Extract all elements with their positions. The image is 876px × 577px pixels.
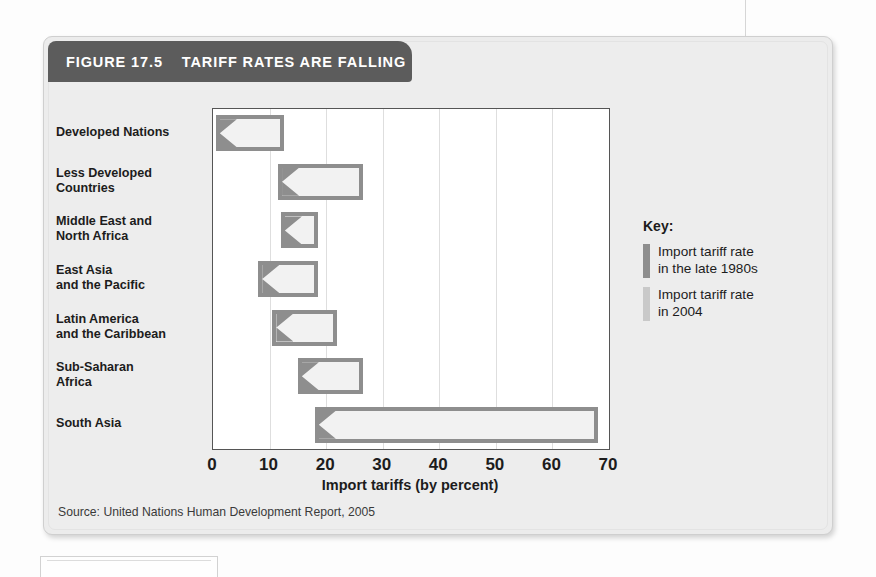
gridline-30 — [383, 109, 384, 449]
category-label-line1: Latin America — [56, 312, 224, 327]
bar-south-asia — [315, 407, 598, 443]
legend-label-line: in the late 1980s — [658, 260, 758, 277]
gridline-40 — [439, 109, 440, 449]
category-label-line2: North Africa — [56, 229, 224, 244]
x-tick-20: 20 — [305, 455, 345, 475]
category-label-line2: Africa — [56, 375, 224, 390]
figure-source: Source: United Nations Human Development… — [58, 505, 375, 519]
bar-developed-nations — [216, 115, 284, 151]
figure-number: FIGURE 17.5 — [66, 54, 163, 70]
category-label-6: South Asia — [56, 416, 224, 431]
category-label-line2: Countries — [56, 181, 224, 196]
legend-swatch-0 — [643, 244, 650, 278]
legend-label-line: Import tariff rate — [658, 243, 758, 260]
category-label-line1: Developed Nations — [56, 125, 224, 140]
category-label-line1: South Asia — [56, 416, 224, 431]
page-vertical-rule — [745, 0, 746, 38]
category-label-line1: Sub-Saharan — [56, 360, 224, 375]
category-label-5: Sub-SaharanAfrica — [56, 360, 224, 390]
x-tick-40: 40 — [418, 455, 458, 475]
chart-plot-area — [212, 108, 610, 450]
legend-swatch-1 — [643, 287, 650, 321]
bar-sub-saharan-africa — [298, 358, 363, 394]
x-tick-70: 70 — [588, 455, 628, 475]
category-label-0: Developed Nations — [56, 125, 224, 140]
x-tick-10: 10 — [249, 455, 289, 475]
category-label-4: Latin Americaand the Caribbean — [56, 312, 224, 342]
category-label-line1: Middle East and — [56, 214, 224, 229]
category-label-line2: and the Pacific — [56, 278, 224, 293]
x-tick-0: 0 — [192, 455, 232, 475]
legend-label-line: Import tariff rate — [658, 286, 754, 303]
figure-title: TARIFF RATES ARE FALLING — [182, 54, 406, 70]
legend-heading: Key: — [643, 218, 823, 234]
legend-label-0: Import tariff ratein the late 1980s — [658, 243, 758, 277]
bar-fill — [319, 411, 594, 439]
x-tick-30: 30 — [362, 455, 402, 475]
gridline-20 — [326, 109, 327, 449]
legend-label-1: Import tariff ratein 2004 — [658, 286, 754, 320]
category-label-1: Less DevelopedCountries — [56, 166, 224, 196]
x-tick-60: 60 — [531, 455, 571, 475]
legend-entry-1: Import tariff ratein 2004 — [643, 286, 823, 321]
category-label-3: East Asiaand the Pacific — [56, 263, 224, 293]
legend-entry-0: Import tariff ratein the late 1980s — [643, 243, 823, 278]
bar-latin-america-and-the-caribbean — [272, 310, 337, 346]
legend-label-line: in 2004 — [658, 303, 754, 320]
gridline-50 — [496, 109, 497, 449]
category-label-2: Middle East andNorth Africa — [56, 214, 224, 244]
x-tick-50: 50 — [475, 455, 515, 475]
figure-title-text: FIGURE 17.5 TARIFF RATES ARE FALLING — [66, 54, 406, 70]
chart-legend: Key: Import tariff ratein the late 1980s… — [643, 218, 823, 329]
category-label-line1: Less Developed — [56, 166, 224, 181]
page-bottom-fragment-line — [47, 560, 211, 561]
figure-title-tab: FIGURE 17.5 TARIFF RATES ARE FALLING — [48, 41, 412, 82]
bar-east-asia-and-the-pacific — [258, 261, 317, 297]
gridline-60 — [552, 109, 553, 449]
page-bottom-fragment — [40, 556, 218, 577]
category-label-line1: East Asia — [56, 263, 224, 278]
bar-less-developed-countries — [278, 164, 363, 200]
bar-middle-east-and-north-africa — [281, 212, 318, 248]
figure-page: FIGURE 17.5 TARIFF RATES ARE FALLING Dev… — [0, 0, 876, 577]
legend-entry-group: Import tariff ratein the late 1980sImpor… — [643, 243, 823, 321]
category-label-line2: and the Caribbean — [56, 327, 224, 342]
x-axis-title: Import tariffs (by percent) — [212, 477, 608, 493]
